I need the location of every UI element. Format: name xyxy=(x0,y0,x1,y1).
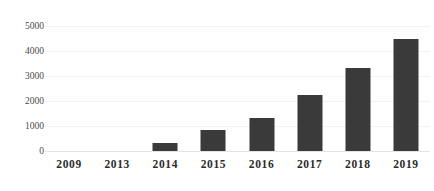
bar[interactable] xyxy=(393,39,418,151)
y-axis-tick-label: 5000 xyxy=(2,21,44,31)
y-axis-tick-label: 0 xyxy=(2,146,44,156)
y-axis-tick-label: 3000 xyxy=(2,71,44,81)
x-axis-tick-label: 2013 xyxy=(93,158,141,170)
bar-chart: 010002000300040005000 200920132014201520… xyxy=(0,0,434,191)
bar-slot xyxy=(382,26,430,151)
x-axis-tick-label: 2016 xyxy=(238,158,286,170)
y-axis-tick-label: 1000 xyxy=(2,121,44,131)
bar-slot xyxy=(286,26,334,151)
bar-slot xyxy=(45,26,93,151)
gridline xyxy=(45,151,430,152)
bar-slot xyxy=(93,26,141,151)
x-axis-tick-label: 2009 xyxy=(45,158,93,170)
plot-area xyxy=(45,26,430,151)
y-axis-tick-label: 4000 xyxy=(2,46,44,56)
bar-slot xyxy=(238,26,286,151)
bar[interactable] xyxy=(297,95,322,151)
y-axis: 010002000300040005000 xyxy=(0,26,44,151)
x-axis: 20092013201420152016201720182019 xyxy=(45,155,430,181)
y-axis-tick-label: 2000 xyxy=(2,96,44,106)
x-axis-tick-label: 2019 xyxy=(382,158,430,170)
x-axis-tick-label: 2015 xyxy=(189,158,237,170)
bar[interactable] xyxy=(345,68,370,151)
bar[interactable] xyxy=(153,143,178,151)
x-axis-tick-label: 2014 xyxy=(141,158,189,170)
bar-slot xyxy=(189,26,237,151)
chart-title-watermark xyxy=(0,1,434,12)
bar-slot xyxy=(334,26,382,151)
bar[interactable] xyxy=(201,130,226,151)
bar-slot xyxy=(141,26,189,151)
bar[interactable] xyxy=(249,118,274,151)
x-axis-tick-label: 2017 xyxy=(286,158,334,170)
x-axis-tick-label: 2018 xyxy=(334,158,382,170)
